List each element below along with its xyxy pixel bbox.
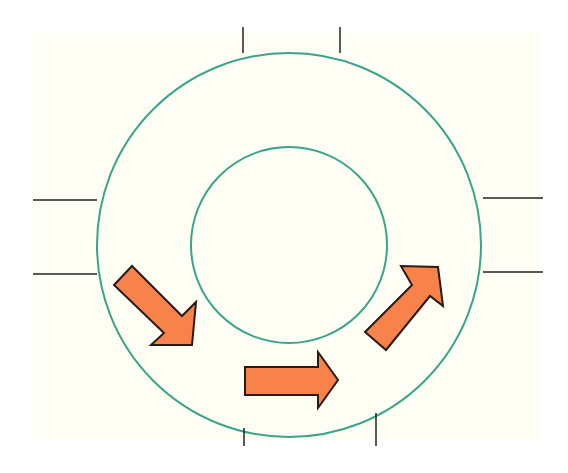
arrow-east-icon: [245, 352, 338, 408]
traffic-flow-arrows: [114, 266, 443, 408]
roundabout-diagram: [0, 0, 568, 473]
east-road: [483, 198, 543, 272]
arrow-southeast-icon: [114, 266, 196, 345]
west-road: [33, 200, 97, 274]
south-road: [244, 413, 376, 446]
north-road: [243, 27, 340, 53]
inner-circle: [191, 147, 387, 343]
arrow-northeast-icon: [365, 266, 443, 350]
